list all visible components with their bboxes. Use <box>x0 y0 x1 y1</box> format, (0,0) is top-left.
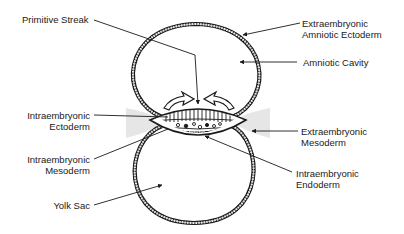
label-yolk-sac: Yolk Sac <box>53 200 90 211</box>
label-extraembryonic-amniotic-ectoderm: Extraembryonic Amniotic Ectoderm <box>302 18 382 40</box>
cell-migration-arrows <box>164 92 234 110</box>
primitive-streak-leader <box>94 20 198 104</box>
label-extraembryonic-mesoderm: Extraembryonic Mesoderm <box>301 126 367 148</box>
amniotic-ectoderm-leader <box>243 23 300 35</box>
yolk-sac <box>135 126 254 223</box>
label-intraembryonic-endoderm: Intraembryonic Endoderm <box>296 168 359 190</box>
label-primitive-streak: Primitive Streak <box>22 14 89 25</box>
yolk-sac-leader <box>94 185 162 205</box>
label-intraembryonic-mesoderm: Intraembryonic Mesoderm <box>27 154 90 176</box>
label-amniotic-cavity: Amniotic Cavity <box>303 57 368 68</box>
label-intraembryonic-ectoderm: Intraembryonic Ectoderm <box>27 110 90 132</box>
